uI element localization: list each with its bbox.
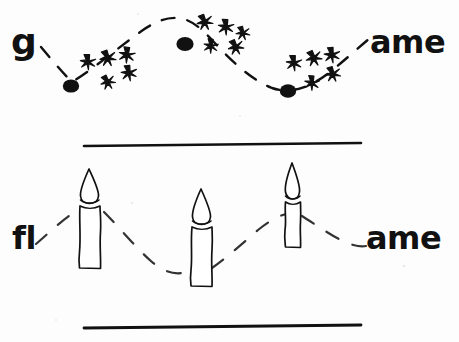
candle-body [285, 202, 301, 248]
candle-flame [285, 163, 299, 199]
asterisk [303, 74, 321, 92]
lower-rule [84, 325, 361, 328]
candle-body [190, 227, 212, 287]
label-prefix-fl: fl [12, 222, 36, 254]
asterisk [323, 46, 340, 63]
spark-cluster-1 [63, 45, 137, 93]
asterisk [236, 26, 251, 41]
game-panel-group [41, 13, 370, 98]
flame-panel-group [36, 143, 366, 328]
label-suffix-ame-top: ame [370, 26, 445, 58]
asterisk [217, 18, 236, 37]
asterisk [99, 49, 117, 67]
upper-rule [84, 143, 361, 146]
black-dot-2 [176, 37, 193, 51]
spark-cluster-3 [280, 46, 341, 97]
page-root: g ame fl ame [0, 0, 459, 342]
candle-flame [192, 189, 210, 225]
black-dot-1 [63, 79, 79, 92]
candle-3 [285, 163, 301, 248]
asterisk [120, 65, 137, 82]
asterisk [79, 53, 97, 71]
asterisk [196, 13, 214, 31]
candle-body [79, 206, 101, 269]
label-suffix-ame-bottom: ame [366, 222, 441, 254]
asterisk [99, 73, 117, 91]
black-dot-3 [280, 84, 296, 98]
asterisk [304, 49, 323, 68]
label-prefix-g: g [11, 24, 36, 60]
candle-1 [79, 169, 101, 269]
candle-2 [190, 189, 212, 287]
asterisk [285, 54, 303, 72]
game-dashed-wave [41, 18, 370, 91]
candle-flame [80, 169, 98, 204]
asterisk [227, 38, 245, 56]
asterisk [325, 66, 341, 82]
